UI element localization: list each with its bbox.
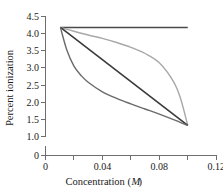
x-tick-labels: 0 0.04 0.08 0.12 [43,161,223,172]
chart-figure: 4.5 4.0 3.5 3.0 2.5 2.0 1.5 1.0 0 0 0.04… [0,0,223,188]
y-tick-label: 3.5 [27,45,40,56]
y-tick-marks [41,17,46,156]
y-tick-label: 4.0 [27,28,40,39]
y-tick-label: 2.0 [27,97,40,108]
y-tick-label: 1.0 [27,131,40,142]
x-tick-label: 0.04 [94,161,112,172]
x-axis-title: Concentration ( M ) [65,176,142,188]
x-axis-title-close: ) [139,176,143,188]
x-tick-label: 0.12 [207,161,223,172]
y-tick-label: 3.0 [27,62,40,73]
y-axis-origin-label: 0 [34,150,39,161]
y-tick-label: 1.5 [27,114,40,125]
y-tick-label: 2.5 [27,80,40,91]
x-tick-label: 0.08 [151,161,169,172]
y-axis-title: Percent ionization [4,49,15,126]
x-tick-marks [46,156,217,161]
y-tick-labels: 4.5 4.0 3.5 3.0 2.5 2.0 1.5 1.0 0 [27,11,40,161]
series-linear-diagonal [60,27,187,125]
percent-ionization-chart: 4.5 4.0 3.5 3.0 2.5 2.0 1.5 1.0 0 0 0.04… [0,0,223,188]
axes [46,16,218,156]
y-tick-label: 4.5 [27,11,40,22]
x-tick-label: 0 [43,161,48,172]
data-series-layer [60,27,187,125]
x-axis-title-text: Concentration ( [65,176,131,188]
